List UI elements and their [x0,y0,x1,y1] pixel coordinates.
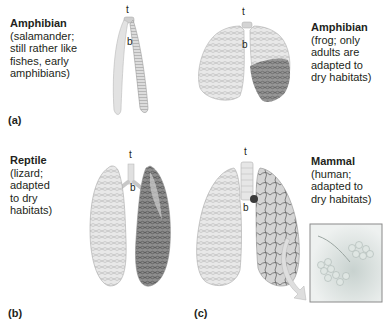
caption-salamander: Amphibian (salamander; still rather like… [10,17,77,80]
trachea-tag-frog: t [242,6,245,17]
bronchus-tag-lizard: b [130,182,136,193]
caption-line: adapted to [311,180,372,193]
caption-title: Amphibian [10,17,77,30]
caption-line: (human; [311,168,372,181]
caption-line: (lizard; [10,167,52,180]
caption-line: adults are [311,46,372,59]
alveoli-inset [310,224,382,302]
panel-label-c: (c) [194,307,207,319]
caption-line: (salamander; [10,30,77,43]
bronchus-tag-frog: b [242,39,248,50]
caption-line: to dry [10,192,52,205]
trachea-tag-lizard: t [129,149,132,160]
bronchus-tag-human: b [243,202,249,213]
human-lungs [197,162,306,300]
trachea-tag-salamander: t [126,4,129,15]
caption-title: Mammal [311,155,372,168]
frog-lungs [199,22,291,102]
caption-lizard: Reptile (lizard; adapted to dry habitats… [10,154,52,217]
caption-line: dry habitats) [311,193,372,206]
panel-label-b: (b) [8,307,22,319]
caption-title: Reptile [10,154,52,167]
caption-line: habitats) [10,204,52,217]
panel-label-a: (a) [8,114,21,126]
caption-line: adapted [10,179,52,192]
caption-frog: Amphibian (frog; only adults are adapted… [311,21,372,84]
caption-line: dry habitats) [311,71,372,84]
caption-line: still rather like [10,42,77,55]
caption-title: Amphibian [311,21,372,34]
caption-line: fishes, early [10,55,77,68]
caption-line: adapted to [311,59,372,72]
salamander-lungs [113,17,148,115]
bronchus-tag-salamander: b [127,36,133,47]
trachea-tag-human: t [244,146,247,157]
caption-line: amphibians) [10,67,77,80]
caption-human: Mammal (human; adapted to dry habitats) [311,155,372,205]
caption-line: (frog; only [311,34,372,47]
